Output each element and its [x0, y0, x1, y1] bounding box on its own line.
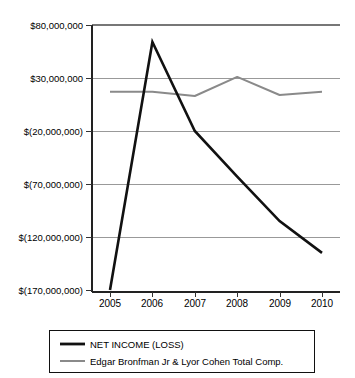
series-line-total-comp — [110, 77, 322, 96]
y-tick-label: $(120,000,000) — [19, 232, 83, 243]
chart-container: $80,000,000 $30,000,000 $(20,000,000) $(… — [0, 0, 355, 378]
x-tick-label: 2009 — [269, 298, 292, 309]
y-tick-label: $(20,000,000) — [24, 126, 83, 137]
y-tick-label: $30,000,000 — [30, 73, 83, 84]
series-line-net-income — [110, 42, 322, 290]
y-tick-label: $(170,000,000) — [19, 285, 83, 296]
y-tick-label: $(70,000,000) — [24, 179, 83, 190]
y-tick-marks — [86, 25, 92, 290]
x-tick-marks — [110, 292, 322, 297]
axes — [92, 25, 340, 292]
x-axis-labels: 2005 2006 2007 2008 2009 2010 — [99, 298, 334, 309]
legend-label-total-comp: Edgar Bronfman Jr & Lyor Cohen Total Com… — [90, 356, 283, 367]
y-tick-label: $80,000,000 — [30, 20, 83, 31]
chart-legend: NET INCOME (LOSS) Edgar Bronfman Jr & Ly… — [49, 330, 314, 372]
x-tick-label: 2008 — [226, 298, 249, 309]
line-chart: $80,000,000 $30,000,000 $(20,000,000) $(… — [0, 0, 355, 378]
x-tick-label: 2005 — [99, 298, 122, 309]
y-axis-labels: $80,000,000 $30,000,000 $(20,000,000) $(… — [19, 20, 83, 296]
legend-label-net-income: NET INCOME (LOSS) — [90, 339, 184, 350]
x-tick-label: 2006 — [141, 298, 164, 309]
x-tick-label: 2010 — [311, 298, 334, 309]
x-tick-label: 2007 — [184, 298, 207, 309]
gridlines — [92, 25, 340, 237]
